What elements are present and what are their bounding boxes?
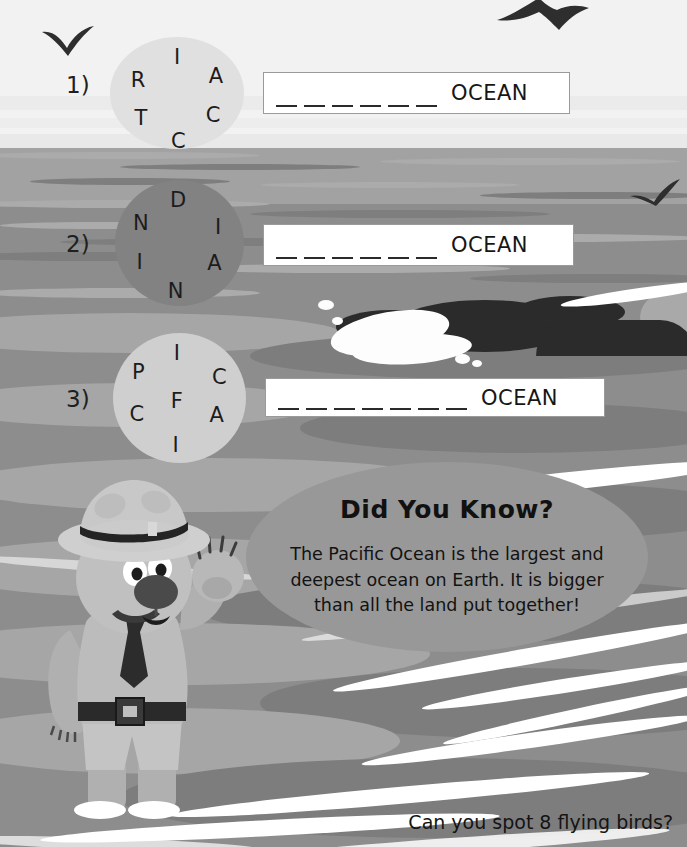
answer-box-1[interactable]: OCEAN <box>263 72 570 114</box>
circle-letter: R <box>131 68 146 92</box>
blank-slot[interactable] <box>332 105 353 107</box>
blank-slot[interactable] <box>446 408 467 410</box>
puzzle-number-2: 2) <box>66 231 90 257</box>
circle-letter: A <box>207 251 221 275</box>
circle-letter: I <box>174 45 180 69</box>
blank-slot[interactable] <box>306 408 327 410</box>
blank-slot[interactable] <box>276 105 297 107</box>
ocean-label: OCEAN <box>451 233 528 257</box>
ocean-label: OCEAN <box>451 81 528 105</box>
circle-letter: C <box>212 365 227 389</box>
blank-slot[interactable] <box>388 105 409 107</box>
circle-letter: C <box>171 129 186 153</box>
bubble-body: The Pacific Ocean is the largest and dee… <box>287 542 607 618</box>
blank-slot[interactable] <box>304 257 325 259</box>
circle-letter: A <box>209 64 223 88</box>
blank-slot[interactable] <box>276 257 297 259</box>
circle-letter: I <box>136 250 142 274</box>
bird-icon <box>628 178 682 208</box>
circle-letter: N <box>133 211 149 235</box>
blank-slot[interactable] <box>418 408 439 410</box>
circle-letter: I <box>172 433 178 457</box>
circle-letter: D <box>170 188 186 212</box>
circle-letter: P <box>132 360 145 384</box>
letter-circle-2: D N I I A N <box>115 180 244 306</box>
answer-box-2[interactable]: OCEAN <box>263 224 574 266</box>
circle-letter: I <box>215 215 221 239</box>
ranger-bear <box>30 480 260 820</box>
bird-icon <box>495 0 591 32</box>
answer-blanks-1[interactable] <box>276 67 437 119</box>
blank-slot[interactable] <box>416 257 437 259</box>
answer-box-3[interactable]: OCEAN <box>265 378 605 417</box>
blank-slot[interactable] <box>388 257 409 259</box>
ocean-label: OCEAN <box>481 386 558 410</box>
blank-slot[interactable] <box>334 408 355 410</box>
blank-slot[interactable] <box>416 105 437 107</box>
blank-slot[interactable] <box>360 257 381 259</box>
circle-letter: C <box>206 103 221 127</box>
circle-letter: A <box>210 403 224 427</box>
answer-blanks-3[interactable] <box>278 373 467 422</box>
footer-prompt: Can you spot 8 flying birds? <box>408 811 673 833</box>
blank-slot[interactable] <box>390 408 411 410</box>
blank-slot[interactable] <box>362 408 383 410</box>
blank-slot[interactable] <box>304 105 325 107</box>
circle-letter: C <box>130 402 145 426</box>
bird-icon <box>40 24 96 58</box>
circle-letter: N <box>168 279 184 303</box>
letter-circle-3: I P C F C A I <box>113 333 246 463</box>
puzzle-number-3: 3) <box>66 386 90 412</box>
circle-letter: I <box>174 341 180 365</box>
did-you-know-bubble: Did You Know? The Pacific Ocean is the l… <box>246 462 648 652</box>
answer-blanks-2[interactable] <box>276 219 437 271</box>
circle-letter: T <box>134 106 147 130</box>
circle-letter: F <box>171 389 183 413</box>
blank-slot[interactable] <box>332 257 353 259</box>
blank-slot[interactable] <box>360 105 381 107</box>
worksheet-page: 1) I R A T C C OCEAN 2) D N I I A N <box>0 0 687 847</box>
bubble-heading: Did You Know? <box>340 495 554 524</box>
blank-slot[interactable] <box>278 408 299 410</box>
letter-circle-1: I R A T C C <box>110 37 244 149</box>
puzzle-number-1: 1) <box>66 72 90 98</box>
